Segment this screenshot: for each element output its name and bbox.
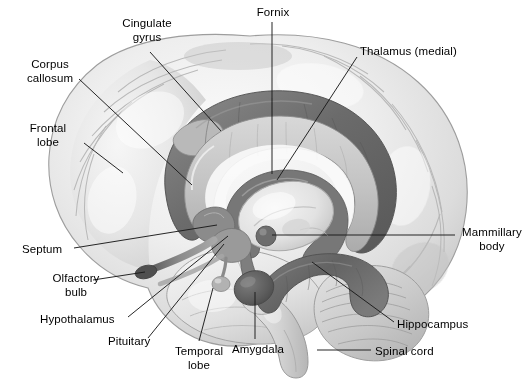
label-cingulate-gyrus: Cingulate gyrus xyxy=(112,17,182,44)
pituitary-highlight xyxy=(215,279,222,284)
mammillary-body-region xyxy=(256,226,276,246)
label-olfactory-bulb: Olfactory bulb xyxy=(45,272,107,299)
label-septum: Septum xyxy=(22,243,70,257)
label-hypothalamus: Hypothalamus xyxy=(40,313,124,327)
label-fornix: Fornix xyxy=(250,6,296,20)
brain-anatomy-figure: Cingulate gyrusFornixThalamus (medial)Co… xyxy=(0,0,530,386)
label-temporal-lobe: Temporal lobe xyxy=(168,345,230,372)
label-corpus-callosum: Corpus callosum xyxy=(15,58,85,85)
label-thalamus-medial: Thalamus (medial) xyxy=(360,45,470,59)
label-amygdala: Amygdala xyxy=(232,343,294,357)
mammillary-body-shape xyxy=(256,226,276,246)
label-frontal-lobe: Frontal lobe xyxy=(18,122,78,149)
pituitary-shape xyxy=(212,277,230,292)
label-pituitary: Pituitary xyxy=(108,335,164,349)
label-hippocampus: Hippocampus xyxy=(397,318,479,332)
label-spinal-cord: Spinal cord xyxy=(375,345,447,359)
mammillary-highlight xyxy=(259,228,266,235)
label-mammillary-body: Mammillary body xyxy=(458,226,526,253)
